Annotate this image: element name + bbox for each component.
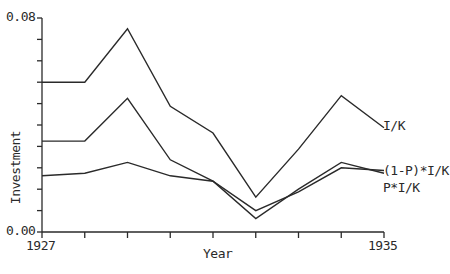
legend-1p-ik: (1-P)*I/K <box>383 163 449 178</box>
series-line-2 <box>42 98 384 218</box>
legend-p-ik: P*I/K <box>383 180 420 195</box>
series-lines <box>42 29 384 219</box>
y-tick-label-bottom: 0.00 <box>6 223 35 238</box>
axes <box>37 18 384 238</box>
y-tick-label-top: 0.08 <box>6 9 35 24</box>
line-chart <box>0 0 450 274</box>
legend-ik: I/K <box>383 118 405 133</box>
x-axis-title: Year <box>203 246 232 261</box>
y-axis-title: Investment <box>8 131 23 204</box>
x-tick-label-right: 1935 <box>368 238 397 253</box>
x-tick-label-left: 1927 <box>26 238 55 253</box>
series-line-1 <box>42 162 384 210</box>
